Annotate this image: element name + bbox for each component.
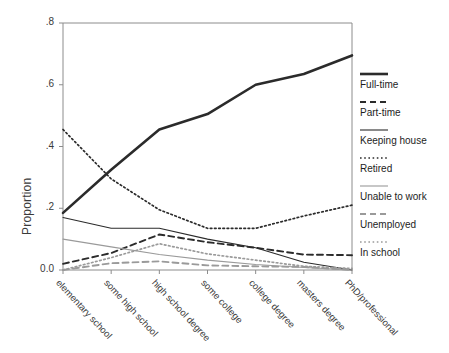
series-line-retired bbox=[63, 130, 352, 229]
series-line-full-time bbox=[63, 55, 352, 212]
plot-area bbox=[0, 0, 449, 353]
series-line-keeping-house bbox=[63, 218, 352, 270]
chart-figure: Proportion 0.0.2.4.6.8 elementary school… bbox=[0, 0, 449, 353]
